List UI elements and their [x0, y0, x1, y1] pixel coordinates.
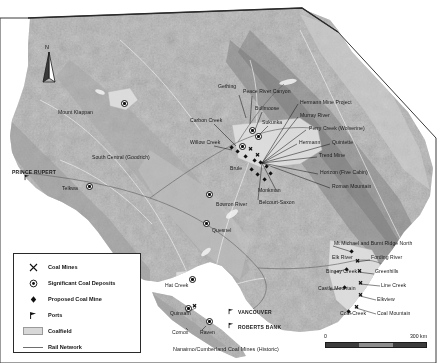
city-label-roberts-bank: ROBERTS BANK	[238, 325, 281, 330]
scale-bar-graphic	[325, 342, 427, 348]
legend-label-significant-deposits: Significant Coal Deposits	[48, 275, 115, 291]
place-label-bullmoose: Bullmoose	[255, 106, 279, 111]
significant-deposit-icon	[22, 275, 44, 291]
callout-label-perry-creek: Perry Creek (Wolverine)	[309, 126, 365, 131]
place-label-comox: Comox	[172, 330, 188, 335]
proposed-mine-icon	[22, 291, 44, 307]
port-icon	[228, 322, 235, 329]
coal-mine-icon: ✖	[357, 268, 362, 274]
coal-mine-icon: ✖	[248, 146, 253, 152]
significant-deposit-icon	[203, 220, 210, 227]
legend-label-proposed-mine: Proposed Coal Mine	[48, 291, 102, 307]
significant-deposit-icon	[239, 143, 246, 150]
scale-min-label: 0	[324, 333, 327, 339]
callout-label-elk-river: Elk River	[332, 255, 353, 260]
scale-bar: 0 300 km	[325, 333, 425, 353]
legend-row-proposed-mine: Proposed Coal Mine	[14, 291, 140, 307]
callout-label-coal-creek: Coal Creek	[340, 311, 366, 316]
callout-label-elkview: Elkview	[377, 297, 395, 302]
city-label-prince-rupert: PRINCE RUPERT	[12, 170, 56, 175]
callout-label-coal-mountain: Coal Mountain	[377, 311, 411, 316]
callout-label-fording-river: Fording River	[371, 255, 402, 260]
north-arrow: N	[38, 44, 60, 84]
historic-mines-note: Nanaimo/Cumberland Coal Mines (Historic)	[173, 347, 279, 353]
callout-label-quintette: Quintette	[332, 140, 353, 145]
place-label-south-central: South Central (Goodrich)	[92, 155, 150, 160]
callout-label-line-creek: Line Creek	[381, 283, 406, 288]
coal-mine-icon	[22, 259, 44, 275]
callout-label-horizon-five-cabin: Horizon (Five Cabin)	[320, 170, 368, 175]
coal-mine-icon: ✖	[355, 258, 360, 264]
significant-deposit-icon	[249, 127, 256, 134]
place-label-willow-creek: Willow Creek	[190, 140, 220, 145]
legend-row-rail-network: Rail Network	[14, 339, 140, 355]
significant-deposit-icon	[206, 191, 213, 198]
callout-label-trend-mine: Trend Mine	[319, 153, 345, 158]
callout-label-roman-mountain: Roman Mountain	[332, 184, 372, 189]
place-label-sukunka: Sukunka	[262, 120, 282, 125]
map-screenshot: ✖ ✖ ✖ ✖ ✖ ✖ ✖ ✖ N PRINCE RUPER	[0, 0, 437, 363]
legend-row-coal-mines: Coal Mines	[14, 259, 140, 275]
place-label-telkwa: Telkwa	[62, 186, 78, 191]
callout-label-castle-mountain: Castle Mountain	[318, 286, 356, 291]
significant-deposit-icon	[86, 183, 93, 190]
place-label-gething: Gething	[218, 84, 236, 89]
map-legend: Coal Mines Significant Coal Deposits Pro…	[13, 253, 141, 353]
place-label-brule: Brule	[230, 166, 242, 171]
place-label-hat-creek: Hat Creek	[165, 283, 188, 288]
legend-label-coal-mines: Coal Mines	[48, 259, 78, 275]
legend-label-rail-network: Rail Network	[48, 339, 82, 355]
legend-row-ports: Ports	[14, 307, 140, 323]
callout-label-hermann-mine-project: Hermann Mine Project	[300, 100, 352, 105]
coal-mine-icon: ✖	[358, 292, 363, 298]
north-arrow-label: N	[45, 44, 49, 50]
coal-mine-icon: ✖	[358, 280, 363, 286]
place-label-carbon-creek: Carbon Creek	[190, 118, 222, 123]
callout-label-mt-michael-burnt-ridge: Mt Michael and Burnt Ridge North	[334, 241, 412, 246]
legend-row-significant-deposits: Significant Coal Deposits	[14, 275, 140, 291]
significant-deposit-icon	[121, 100, 128, 107]
legend-label-ports: Ports	[48, 307, 62, 323]
callout-label-hermann: Hermann	[299, 140, 320, 145]
significant-deposit-icon	[189, 276, 196, 283]
scale-max-label: 300 km	[410, 333, 427, 339]
place-label-quinsam: Quinsam	[170, 311, 191, 316]
callout-label-bingay-creek: Bingay Creek	[326, 269, 357, 274]
place-label-peace-river-canyon: Peace River Canyon	[243, 89, 291, 94]
callout-label-murray-river: Murray River	[300, 113, 330, 118]
rail-line-icon	[22, 339, 44, 355]
place-label-raven: Raven	[200, 330, 215, 335]
port-icon	[22, 307, 44, 323]
significant-deposit-icon	[206, 318, 213, 325]
coal-mine-icon: ✖	[255, 152, 260, 158]
coal-mine-icon: ✖	[192, 303, 197, 309]
place-label-mount-klappan: Mount Klappan	[58, 110, 93, 115]
place-label-monkman: Monkman	[258, 188, 281, 193]
place-label-belcourt-saxon: Belcourt-Saxon	[259, 200, 295, 205]
place-label-bowron-river: Bowron River	[216, 202, 247, 207]
legend-row-coalfield: Coalfield	[14, 323, 140, 339]
coalfield-swatch	[22, 323, 44, 339]
legend-label-coalfield: Coalfield	[48, 323, 72, 339]
significant-deposit-icon	[255, 133, 262, 140]
place-label-quesnel: Quesnel	[212, 228, 231, 233]
port-icon	[228, 308, 235, 315]
city-label-vancouver: VANCOUVER	[238, 310, 272, 315]
callout-label-greenhills: Greenhills	[375, 269, 398, 274]
